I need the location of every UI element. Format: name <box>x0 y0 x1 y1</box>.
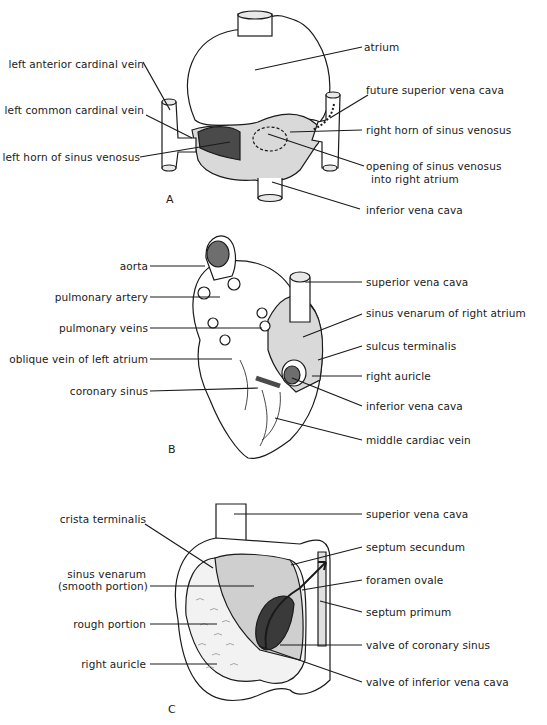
label-valve-coronary-sinus: valve of coronary sinus <box>366 639 490 651</box>
panel-letter-a: A <box>166 193 174 206</box>
label-foramen-ovale: foramen ovale <box>366 574 443 586</box>
panel-c-drawing <box>145 504 362 700</box>
label-pulmonary-artery: pulmonary artery <box>0 291 148 303</box>
label-valve-inferior-vena-cava: valve of inferior vena cava <box>366 676 509 688</box>
label-septum-secundum: septum secundum <box>366 541 465 553</box>
panel-letter-c: C <box>168 703 176 716</box>
label-atrium: atrium <box>364 41 399 53</box>
label-future-superior-vena-cava: future superior vena cava <box>366 84 504 96</box>
label-left-horn-sinus-venosus: left horn of sinus venosus <box>0 151 140 163</box>
label-septum-primum: septum primum <box>366 606 451 618</box>
label-sinus-venarum-right-atrium: sinus venarum of right atrium <box>366 307 526 319</box>
panel-a-drawing <box>140 11 368 209</box>
label-right-auricle-b: right auricle <box>366 370 431 382</box>
label-opening-sinus-venosus: opening of sinus venosus <box>366 160 502 172</box>
label-into-right-atrium: into right atrium <box>371 173 459 185</box>
label-superior-vena-cava-c: superior vena cava <box>366 508 468 520</box>
label-crista-terminalis: crista terminalis <box>0 513 146 525</box>
label-inferior-vena-cava-a: inferior vena cava <box>366 204 463 216</box>
label-sulcus-terminalis: sulcus terminalis <box>366 340 456 352</box>
label-sinus-venarum: sinus venarum <box>0 568 146 580</box>
label-left-common-cardinal-vein: left common cardinal vein <box>0 104 144 116</box>
label-smooth-portion: (smooth portion) <box>0 580 148 592</box>
panel-letter-b: B <box>168 443 176 456</box>
label-oblique-vein-left-atrium: oblique vein of left atrium <box>0 353 148 365</box>
label-inferior-vena-cava-b: inferior vena cava <box>366 400 463 412</box>
label-pulmonary-veins: pulmonary veins <box>0 322 148 334</box>
label-coronary-sinus: coronary sinus <box>0 385 148 397</box>
panel-b-drawing <box>150 236 362 458</box>
label-right-auricle-c: right auricle <box>0 658 146 670</box>
label-left-anterior-cardinal-vein: left anterior cardinal vein <box>0 58 144 70</box>
label-superior-vena-cava-b: superior vena cava <box>366 276 468 288</box>
label-right-horn-sinus-venosus: right horn of sinus venosus <box>366 124 511 136</box>
label-rough-portion: rough portion <box>0 618 146 630</box>
label-aorta: aorta <box>0 260 148 272</box>
label-middle-cardiac-vein: middle cardiac vein <box>366 434 471 446</box>
